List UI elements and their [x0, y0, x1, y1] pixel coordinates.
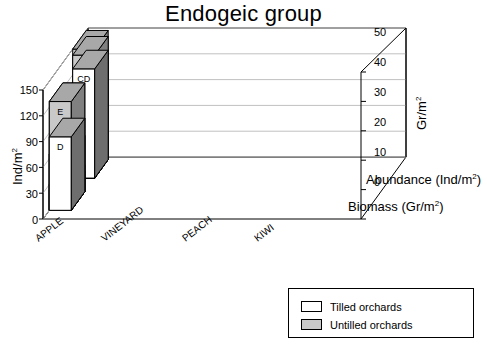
legend-label-tilled: Tilled orchards: [330, 300, 402, 314]
depth-abundance-text: Abundance (Ind/m: [366, 172, 472, 187]
depth-axis-biomass-label: Biomass (Gr/m2): [348, 199, 443, 214]
depth-biomass-text: Biomass (Gr/m: [348, 199, 435, 214]
left-axis-title-sup: 2: [10, 148, 19, 152]
left-axis-title: Ind/m2: [10, 148, 25, 185]
svg-text:CD: CD: [77, 74, 90, 84]
right-axis-title-sup: 2: [414, 97, 423, 101]
left-tick-150: 150: [12, 85, 38, 96]
legend-label-untilled: Untilled orchards: [330, 318, 413, 332]
chart-canvas: Endogeic group CCBADCDDCDCCBAEDED 150 12…: [0, 0, 487, 347]
right-tick-40: 40: [374, 57, 400, 68]
right-axis-title: Gr/m2: [414, 97, 429, 130]
right-tick-10: 10: [374, 147, 400, 158]
svg-text:E: E: [57, 107, 63, 117]
legend-swatch-untilled-icon: [301, 319, 322, 330]
left-tick-90: 90: [12, 137, 38, 148]
legend: Tilled orchards Untilled orchards: [288, 288, 474, 338]
left-axis-title-text: Ind/m: [10, 152, 25, 185]
depth-biomass-tail: ): [439, 199, 443, 214]
left-tick-0: 0: [12, 215, 38, 226]
depth-axis-abundance-label: Abundance (Ind/m2): [366, 172, 481, 187]
legend-swatch-tilled-icon: [301, 301, 322, 312]
left-tick-120: 120: [12, 111, 38, 122]
depth-abundance-tail: ): [477, 172, 481, 187]
right-axis-title-text: Gr/m: [414, 101, 429, 130]
right-tick-50: 50: [374, 27, 400, 38]
left-tick-30: 30: [12, 189, 38, 200]
svg-text:D: D: [57, 142, 64, 152]
right-tick-20: 20: [374, 117, 400, 128]
right-tick-30: 30: [374, 87, 400, 98]
